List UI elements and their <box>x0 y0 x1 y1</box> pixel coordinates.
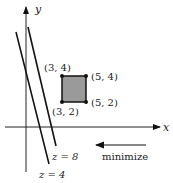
level-label-z8: z = 8 <box>51 151 78 162</box>
corner-point-3-4 <box>60 74 64 78</box>
corner-point-3-2 <box>60 100 64 104</box>
corner-label-3-4: (3, 4) <box>44 62 71 73</box>
feasible-region <box>62 76 86 102</box>
lp-diagram: y x (3, 4) (5, 4) (3, 2) (5, 2) z = 8 z … <box>0 0 173 183</box>
x-axis-label: x <box>163 121 170 134</box>
y-axis-label: y <box>34 3 42 16</box>
minimize-label: minimize <box>102 151 148 162</box>
level-label-z4: z = 4 <box>38 169 65 180</box>
corner-point-5-4 <box>84 74 88 78</box>
corner-label-5-2: (5, 2) <box>91 97 118 108</box>
corner-label-5-4: (5, 4) <box>91 71 118 82</box>
corner-point-5-2 <box>84 100 88 104</box>
corner-label-3-2: (3, 2) <box>52 106 79 117</box>
level-line-z8 <box>28 27 56 146</box>
